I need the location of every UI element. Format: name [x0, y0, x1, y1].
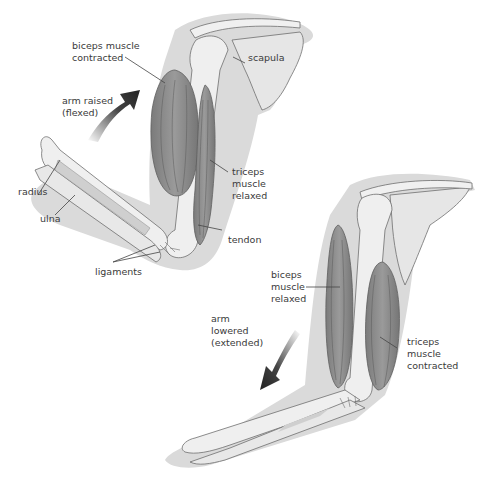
label-triceps-contracted: triceps muscle contracted [407, 336, 458, 372]
label-arm-raised: arm raised (flexed) [62, 95, 113, 119]
label-ligaments: ligaments [95, 266, 142, 278]
label-triceps-relaxed: triceps muscle relaxed [232, 166, 267, 202]
arrow-lower-icon [260, 330, 300, 390]
label-tendon: tendon [228, 234, 261, 246]
label-scapula: scapula [248, 52, 285, 64]
biceps-contracted [151, 70, 199, 196]
label-ulna: ulna [40, 213, 61, 225]
label-biceps-relaxed: biceps muscle relaxed [271, 269, 306, 305]
label-biceps-contracted: biceps muscle contracted [72, 40, 140, 64]
label-arm-lowered: arm lowered (extended) [211, 313, 263, 349]
label-radius: radius [18, 186, 47, 198]
